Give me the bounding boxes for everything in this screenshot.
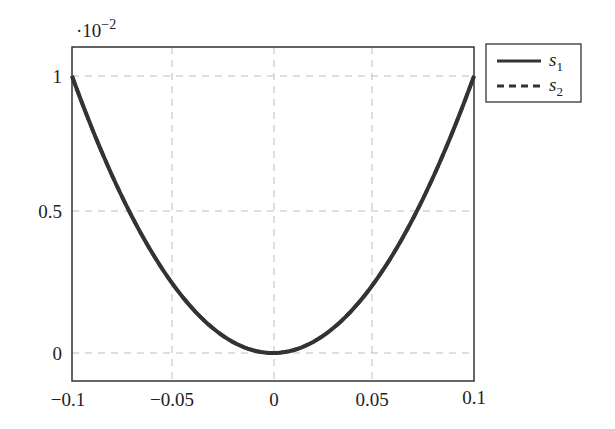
y-axis-ticks: 1 0.5 0 [38, 66, 62, 364]
x-tick-0.05: 0.05 [355, 389, 388, 410]
x-tick-neg0.05: −0.05 [150, 389, 194, 410]
series-s1-line [72, 76, 474, 353]
y-scale-label: ·10−2 [76, 17, 116, 41]
x-tick-0.1: 0.1 [462, 387, 486, 408]
y-tick-0.5: 0.5 [38, 201, 62, 222]
x-axis-ticks: −0.1 −0.05 0 0.05 0.1 [51, 387, 486, 410]
y-tick-1: 1 [53, 66, 63, 87]
x-tick-0: 0 [269, 389, 279, 410]
y-tick-0: 0 [53, 343, 63, 364]
legend: s1 s2 [486, 44, 581, 102]
x-tick-neg0.1: −0.1 [51, 389, 85, 410]
chart: ·10−2 1 0.5 0 −0.1 −0.05 0 0.05 0.1 s1 s… [0, 0, 615, 429]
